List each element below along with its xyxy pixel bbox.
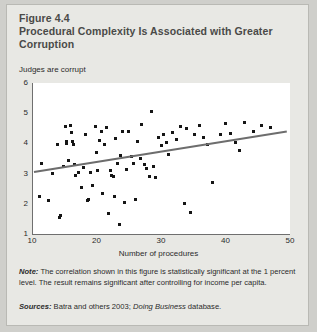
- data-point: [80, 186, 83, 189]
- data-point: [69, 124, 72, 127]
- note-text: The correlation shown in this figure is …: [19, 267, 295, 287]
- data-point: [260, 124, 263, 127]
- figure-card: Figure 4.4 Procedural Complexity Is Asso…: [6, 4, 309, 326]
- data-point: [103, 143, 106, 146]
- x-axis-label: Number of procedures: [7, 249, 310, 258]
- data-point: [150, 110, 153, 113]
- data-point: [98, 139, 101, 142]
- data-point: [59, 214, 62, 217]
- data-point: [165, 141, 168, 144]
- data-point: [132, 162, 135, 165]
- data-point: [234, 141, 237, 144]
- data-point: [113, 195, 116, 198]
- x-tick-label: 40: [216, 236, 236, 245]
- x-tick-label: 50: [280, 236, 300, 245]
- data-point: [114, 137, 117, 140]
- sources-italic-title: Doing Business: [133, 302, 186, 311]
- sources-lead: Sources:: [19, 302, 52, 311]
- data-point: [179, 125, 182, 128]
- x-axis-line: [32, 234, 290, 235]
- data-point: [121, 130, 124, 133]
- data-point: [109, 169, 112, 172]
- data-point: [143, 163, 146, 166]
- data-point: [112, 175, 115, 178]
- data-point: [154, 176, 157, 179]
- data-point: [96, 169, 99, 172]
- data-point: [238, 149, 241, 152]
- data-point: [127, 130, 130, 133]
- data-point: [65, 142, 68, 145]
- data-point: [91, 184, 94, 187]
- figure-sources: Sources: Batra and others 2003; Doing Bu…: [19, 302, 301, 313]
- data-point: [47, 199, 50, 202]
- y-tick-label: 4: [14, 138, 28, 147]
- data-point: [185, 127, 188, 130]
- data-point: [224, 122, 227, 125]
- data-point: [269, 126, 272, 129]
- data-point: [160, 144, 163, 147]
- data-point: [167, 153, 170, 156]
- data-point: [107, 212, 110, 215]
- data-point: [64, 125, 67, 128]
- data-point: [118, 223, 121, 226]
- note-lead: Note:: [19, 267, 38, 276]
- data-point: [38, 195, 41, 198]
- data-point: [229, 132, 232, 135]
- data-point: [198, 124, 201, 127]
- data-point: [243, 121, 246, 124]
- data-point: [148, 175, 151, 178]
- data-point: [162, 133, 165, 136]
- y-axis-line: [32, 83, 33, 234]
- data-point: [77, 171, 80, 174]
- data-point: [171, 131, 174, 134]
- sources-text-2: database.: [186, 302, 221, 311]
- data-point: [84, 133, 87, 136]
- y-tick-label: 5: [14, 108, 28, 117]
- data-point: [89, 171, 92, 174]
- data-point: [101, 192, 104, 195]
- data-point: [145, 167, 148, 170]
- data-point: [51, 172, 54, 175]
- x-tick-label: 30: [151, 236, 171, 245]
- data-point: [211, 181, 214, 184]
- data-point: [40, 162, 43, 165]
- x-tick-label: 20: [87, 236, 107, 245]
- data-point: [72, 143, 75, 146]
- data-point: [94, 125, 97, 128]
- x-tick-label: 10: [22, 236, 42, 245]
- sources-text-1: Batra and others 2003;: [52, 302, 133, 311]
- data-point: [252, 130, 255, 133]
- y-tick-label: 3: [14, 169, 28, 178]
- data-point: [116, 162, 119, 165]
- data-point: [202, 136, 205, 139]
- data-point: [193, 133, 196, 136]
- data-point: [140, 123, 143, 126]
- figure-note: Note: The correlation shown in this figu…: [19, 267, 301, 288]
- data-point: [189, 211, 192, 214]
- data-point: [183, 202, 186, 205]
- data-point: [56, 143, 59, 146]
- data-point: [87, 198, 90, 201]
- data-point: [67, 159, 70, 162]
- data-point: [123, 201, 126, 204]
- data-point: [105, 126, 108, 129]
- y-tick-label: 6: [14, 78, 28, 87]
- data-point: [219, 133, 222, 136]
- data-point: [70, 131, 73, 134]
- data-point: [100, 130, 103, 133]
- data-point: [157, 136, 160, 139]
- plot-area: [32, 83, 290, 234]
- data-point: [134, 198, 137, 201]
- data-point: [95, 151, 98, 154]
- data-point: [175, 138, 178, 141]
- data-point: [136, 140, 139, 143]
- y-axis-label: Judges are corrupt: [19, 65, 86, 74]
- y-tick-label: 2: [14, 199, 28, 208]
- data-point: [139, 157, 142, 160]
- data-point: [125, 168, 128, 171]
- data-point: [152, 165, 155, 168]
- data-point: [82, 166, 85, 169]
